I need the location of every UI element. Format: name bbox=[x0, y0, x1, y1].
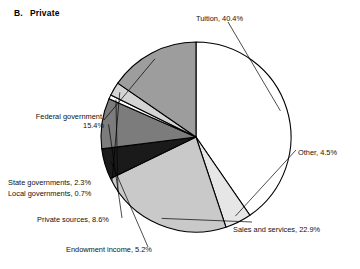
federal-government-value: 15.4% bbox=[8, 121, 104, 130]
slice-label-other: Other, 4.5% bbox=[298, 148, 337, 157]
slice-label-local-governments: Local governments, 0.7% bbox=[8, 189, 91, 198]
slice-label-tuition: Tuition, 40.4% bbox=[196, 14, 243, 23]
slice-label-state-governments: State governments, 2.3% bbox=[8, 178, 91, 187]
slice-label-sales-and-services: Sales and services, 22.9% bbox=[233, 225, 320, 234]
slice-label-private-sources: Private sources, 8.6% bbox=[37, 215, 109, 224]
slice-label-endowment-income: Endowment income, 5.2% bbox=[66, 245, 152, 254]
federal-government-name: Federal government, bbox=[8, 112, 104, 121]
chart-panel: B.Private Tuition, 40.4% Other, 4.5% Sal… bbox=[0, 0, 360, 269]
slice-label-federal-government: Federal government, 15.4% bbox=[8, 112, 104, 130]
